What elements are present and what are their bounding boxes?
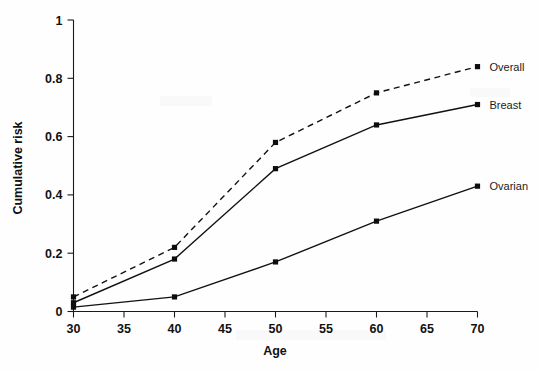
x-tick-label: 50: [269, 322, 283, 336]
x-tick-label: 65: [420, 322, 434, 336]
data-point-marker-ovarian: [71, 305, 76, 310]
x-tick-label: 60: [370, 322, 384, 336]
data-point-marker-breast: [374, 122, 379, 127]
data-point-marker-ovarian: [374, 219, 379, 224]
series-label-overall: Overall: [490, 61, 525, 73]
x-tick-label: 45: [218, 322, 232, 336]
x-tick-label: 30: [67, 322, 81, 336]
x-tick-label: 35: [117, 322, 131, 336]
y-axis-title: Cumulative risk: [11, 121, 25, 214]
series-line-breast: [74, 105, 478, 303]
y-axis-tick-marks: [68, 20, 74, 312]
series-label-breast: Breast: [490, 99, 522, 111]
data-point-marker-overall: [71, 294, 76, 299]
series-inline-labels: OverallBreastOvarian: [490, 61, 529, 193]
data-point-marker-overall: [475, 64, 480, 69]
data-point-marker-breast: [273, 166, 278, 171]
data-point-marker-overall: [374, 90, 379, 95]
x-axis-tick-labels: 303540455055606570: [67, 322, 485, 336]
series-label-ovarian: Ovarian: [490, 180, 529, 192]
data-point-marker-ovarian: [273, 259, 278, 264]
y-tick-label: 0: [56, 305, 63, 319]
x-axis-title: Age: [263, 344, 287, 358]
x-tick-label: 55: [319, 322, 333, 336]
data-point-marker-breast: [172, 256, 177, 261]
x-tick-label: 70: [471, 322, 485, 336]
data-series-layer: [71, 64, 480, 310]
data-point-marker-ovarian: [475, 184, 480, 189]
chart-figure: 00.20.40.60.81 303540455055606570 Overal…: [0, 0, 539, 372]
x-axis-tick-marks: [74, 312, 478, 318]
y-tick-label: 0.6: [45, 130, 62, 144]
y-tick-label: 0.8: [45, 72, 62, 86]
y-tick-label: 0.2: [45, 247, 62, 261]
y-axis-tick-labels: 00.20.40.60.81: [45, 14, 62, 320]
y-tick-label: 1: [56, 14, 63, 28]
cumulative-risk-line-chart: 00.20.40.60.81 303540455055606570 Overal…: [0, 0, 539, 372]
data-point-marker-breast: [475, 102, 480, 107]
y-tick-label: 0.4: [45, 188, 62, 202]
data-point-marker-ovarian: [172, 294, 177, 299]
series-line-ovarian: [74, 186, 478, 307]
data-point-marker-overall: [172, 245, 177, 250]
x-tick-label: 40: [168, 322, 182, 336]
data-point-marker-overall: [273, 140, 278, 145]
